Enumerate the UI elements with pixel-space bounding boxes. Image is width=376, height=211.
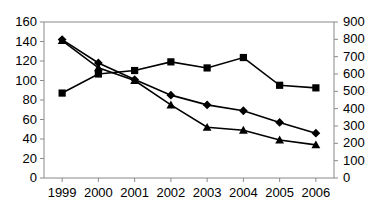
data-point-square: [167, 58, 174, 65]
data-point-square: [204, 64, 211, 71]
data-point-diamond: [275, 118, 284, 127]
y-axis-right-tick-label: 400: [343, 102, 365, 115]
data-point-square: [240, 54, 247, 61]
x-axis-tick-label: 1999: [42, 186, 82, 199]
y-axis-right-tick-label: 600: [343, 67, 365, 80]
y-axis-right-tick-label: 0: [343, 171, 350, 184]
x-axis-tick-label: 2006: [296, 186, 336, 199]
y-axis-right-tick-label: 500: [343, 84, 365, 97]
line-chart: 1601401201008060402009008007006005004003…: [0, 0, 376, 211]
x-axis-tick-label: 2001: [115, 186, 155, 199]
data-point-diamond: [166, 91, 175, 100]
data-point-diamond: [311, 129, 320, 138]
y-axis-left-tick-label: 20: [23, 152, 37, 165]
x-axis-tick-label: 2004: [223, 186, 263, 199]
y-axis-left-tick-label: 120: [15, 54, 37, 67]
y-axis-left-tick-label: 160: [15, 15, 37, 28]
x-axis-tick-label: 2002: [151, 186, 191, 199]
y-axis-left-tick-label: 60: [23, 113, 37, 126]
data-point-diamond: [239, 106, 248, 115]
y-axis-left-tick-label: 0: [30, 171, 37, 184]
y-axis-left-tick-label: 80: [23, 93, 37, 106]
chart-canvas: [0, 0, 376, 211]
y-axis-right-tick-label: 700: [343, 50, 365, 63]
data-point-square: [59, 89, 66, 96]
y-axis-left-tick-label: 40: [23, 132, 37, 145]
y-axis-right-tick-label: 800: [343, 32, 365, 45]
y-axis-left-tick-label: 140: [15, 35, 37, 48]
data-point-square: [312, 84, 319, 91]
data-point-triangle: [166, 100, 175, 108]
series-triangle: [58, 36, 321, 148]
data-point-diamond: [203, 100, 212, 109]
data-point-square: [131, 67, 138, 74]
x-axis-tick-label: 2000: [78, 186, 118, 199]
series-line: [62, 41, 316, 145]
axis-ticks: [40, 22, 338, 182]
y-axis-right-tick-label: 300: [343, 119, 365, 132]
y-axis-right-tick-label: 100: [343, 154, 365, 167]
x-axis-tick-label: 2005: [260, 186, 300, 199]
data-point-square: [276, 82, 283, 89]
y-axis-right-tick-label: 200: [343, 136, 365, 149]
data-point-square: [95, 70, 102, 77]
y-axis-left-tick-label: 100: [15, 74, 37, 87]
y-axis-right-tick-label: 900: [343, 15, 365, 28]
x-axis-tick-label: 2003: [187, 186, 227, 199]
